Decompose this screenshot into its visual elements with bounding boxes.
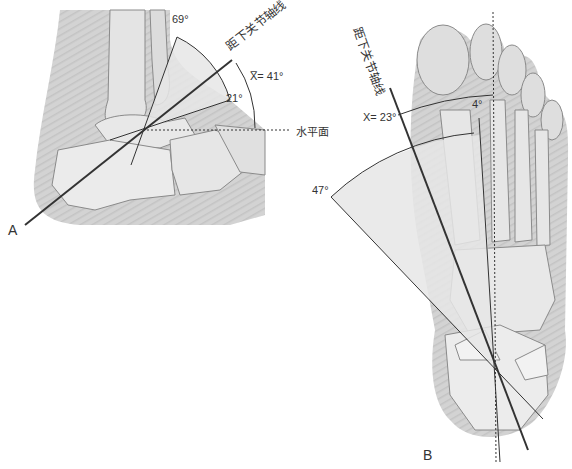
panel-b-label: B	[423, 447, 432, 463]
angle-min-label-b: 4°	[472, 98, 483, 110]
panel-a-illustration	[25, 10, 290, 225]
panel-a-label: A	[8, 222, 17, 238]
horizontal-plane-label: 水平面	[296, 123, 329, 139]
panel-b-illustration	[331, 12, 568, 462]
angle-max-label-a: 69°	[172, 13, 189, 25]
second-toe	[470, 24, 502, 80]
angle-range-wedge-b	[331, 135, 497, 370]
tibia-bone	[105, 10, 146, 128]
angle-mean-label-a: X̅= 41°	[250, 70, 283, 82]
angle-max-label-b: 47°	[312, 184, 329, 196]
angle-mean-label-b: X= 23°	[363, 111, 396, 123]
hallux-toe	[417, 25, 469, 95]
figure-canvas	[0, 0, 572, 469]
angle-min-label-a: 21°	[226, 92, 243, 104]
